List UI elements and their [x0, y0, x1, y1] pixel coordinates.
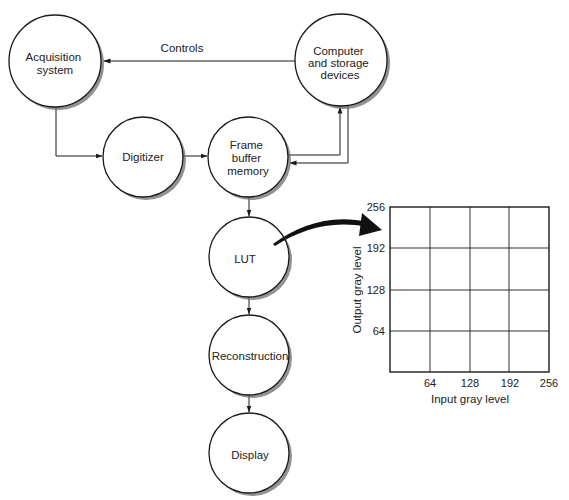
acquisition-label-line2: system	[37, 64, 73, 76]
display-label: Display	[231, 449, 269, 461]
curved-arrowhead-icon	[359, 213, 382, 236]
x-tick-labels: 64 128 192 256	[424, 377, 558, 389]
computer-to-framebuffer-arrow	[290, 105, 348, 163]
node-acquisition-system: Acquisition system	[9, 15, 104, 110]
x-tick-128: 128	[461, 377, 479, 389]
lut-label: LUT	[234, 253, 256, 265]
svg-text:Digitizer: Digitizer	[122, 151, 164, 163]
y-tick-64: 64	[373, 325, 385, 337]
node-frame-buffer-memory: Frame buffer memory	[208, 117, 291, 200]
x-tick-64: 64	[424, 377, 436, 389]
acquisition-label-line1: Acquisition	[26, 51, 82, 63]
x-tick-256: 256	[540, 377, 558, 389]
svg-text:LUT: LUT	[234, 253, 256, 265]
node-display: Display	[209, 413, 292, 496]
node-computer-storage: Computer and storage devices	[295, 14, 390, 109]
connectors	[56, 61, 348, 412]
controls-label: Controls	[161, 42, 204, 54]
node-reconstruction: Reconstruction	[209, 315, 292, 398]
digitizer-label: Digitizer	[122, 151, 164, 163]
y-tick-128: 128	[367, 284, 385, 296]
node-lut: LUT	[209, 217, 292, 300]
y-tick-192: 192	[367, 242, 385, 254]
x-tick-192: 192	[501, 377, 519, 389]
svg-text:Reconstruction: Reconstruction	[212, 350, 289, 362]
framebuffer-label-line3: memory	[227, 165, 269, 177]
framebuffer-label-line2: buffer	[232, 152, 261, 164]
y-axis-label: Output gray level	[351, 247, 363, 334]
y-tick-256: 256	[367, 201, 385, 213]
computer-label-line1: Computer	[313, 45, 364, 57]
framebuffer-label-line1: Frame	[230, 139, 263, 151]
reconstruction-label: Reconstruction	[212, 350, 289, 362]
svg-text:Frame buffer memor: Frame buffer memory	[227, 139, 269, 177]
node-digitizer: Digitizer	[103, 117, 186, 200]
framebuffer-to-computer-arrow	[288, 107, 340, 155]
lut-to-graph-curved-arrow	[273, 213, 382, 246]
computer-label-line2: and storage	[308, 57, 369, 69]
acquisition-to-digitizer-arrow	[56, 108, 102, 156]
x-axis-label: Input gray level	[431, 393, 509, 405]
graph-frame	[390, 207, 549, 372]
imaging-pipeline-diagram: Controls Acquisition system Computer and…	[0, 0, 569, 500]
lut-graph: 256 192 128 64 64 128 192 256 Input gray…	[351, 201, 558, 405]
svg-text:Display: Display	[231, 449, 269, 461]
computer-label-line3: devices	[321, 69, 360, 81]
